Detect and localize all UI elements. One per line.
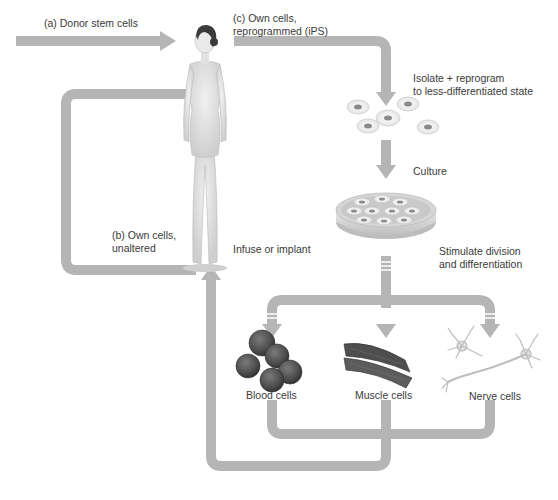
label-stimulate-division: Stimulate division and differentiation [439,245,522,271]
stem-cells-icon [347,97,439,134]
label-infuse-or-implant: Infuse or implant [233,243,311,256]
arrowhead-culture [376,165,396,179]
label-own-cells-unaltered: (b) Own cells, unaltered [112,229,176,255]
arrowhead-muscle [376,324,396,338]
label-own-cells-ips: (c) Own cells, reprogrammed (iPS) [233,12,328,38]
arrowhead-nerve [480,324,500,338]
muscle-cells-icon [344,343,412,388]
human-figure-icon [183,25,227,272]
label-isolate-reprogram: Isolate + reprogram to less-differentiat… [413,72,533,98]
label-donor-stem-cells: (a) Donor stem cells [44,17,138,30]
label-culture: Culture [413,165,447,178]
arrowhead-donor [160,31,176,51]
blood-cells-icon [236,330,302,392]
petri-dish-icon [336,193,436,239]
label-muscle-cells: Muscle cells [355,389,412,402]
label-nerve-cells: Nerve cells [469,390,521,403]
arrow-ips [234,41,386,94]
label-blood-cells: Blood cells [246,389,297,402]
arrowhead-ips [376,92,396,106]
arrow-branch [272,300,490,326]
